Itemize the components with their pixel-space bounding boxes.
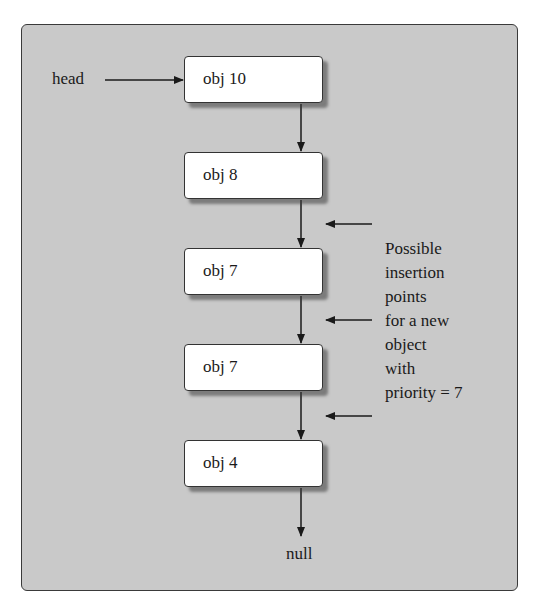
list-node: obj 4: [184, 440, 323, 487]
insertion-note: Possible insertion points for a new obje…: [385, 237, 463, 405]
note-line: with: [385, 357, 463, 381]
head-label: head: [52, 69, 84, 89]
note-line: points: [385, 285, 463, 309]
node-label: obj 4: [203, 453, 237, 473]
list-node: obj 10: [184, 56, 323, 103]
note-line: object: [385, 333, 463, 357]
node-label: obj 7: [203, 261, 237, 281]
note-line: Possible: [385, 237, 463, 261]
null-label: null: [286, 544, 312, 564]
note-line: for a new: [385, 309, 463, 333]
list-node: obj 7: [184, 248, 323, 295]
note-line: priority = 7: [385, 381, 463, 405]
node-label: obj 10: [203, 69, 246, 89]
note-line: insertion: [385, 261, 463, 285]
list-node: obj 8: [184, 152, 323, 199]
node-label: obj 8: [203, 165, 237, 185]
node-label: obj 7: [203, 357, 237, 377]
list-node: obj 7: [184, 344, 323, 391]
